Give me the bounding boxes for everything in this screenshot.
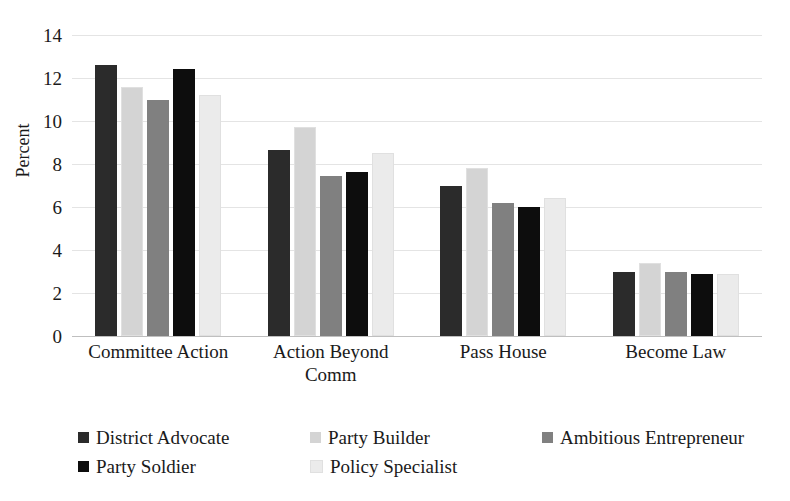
bar — [639, 263, 661, 336]
bar-slot — [268, 35, 290, 336]
bar-slot — [665, 35, 687, 336]
plot-area — [72, 35, 762, 336]
x-axis-label: Pass House — [417, 340, 590, 386]
gridline — [72, 336, 762, 337]
bar — [440, 186, 462, 337]
y-axis-tick-label: 8 — [16, 155, 62, 174]
bar-group — [590, 35, 763, 336]
bar-slot — [346, 35, 368, 336]
x-axis-label: Become Law — [590, 340, 763, 386]
bar-group — [245, 35, 418, 336]
bar-slot — [121, 35, 143, 336]
y-axis-tick-label: 14 — [16, 26, 62, 45]
bar — [518, 207, 540, 336]
legend-swatch-icon — [78, 461, 89, 472]
x-axis-label: Committee Action — [72, 340, 245, 386]
bar-slot — [717, 35, 739, 336]
legend-item[interactable]: Ambitious Entrepreneur — [542, 427, 744, 448]
x-axis-category-labels: Committee ActionAction Beyond CommPass H… — [72, 340, 762, 386]
bar-slot — [440, 35, 462, 336]
bar-slot — [294, 35, 316, 336]
legend-swatch-icon — [542, 432, 553, 443]
y-axis-tick-label: 4 — [16, 241, 62, 260]
bar-slot — [95, 35, 117, 336]
bar-slot — [173, 35, 195, 336]
bar — [492, 203, 514, 336]
legend-label: Policy Specialist — [330, 456, 457, 477]
bar — [95, 65, 117, 336]
bar-slot — [147, 35, 169, 336]
bar — [147, 100, 169, 337]
bar — [691, 274, 713, 336]
legend-item[interactable]: Party Builder — [310, 427, 542, 448]
y-axis-tick-label: 12 — [16, 69, 62, 88]
bar — [173, 69, 195, 336]
bar — [717, 274, 739, 336]
bar-slot — [639, 35, 661, 336]
y-axis-tick-label: 10 — [16, 112, 62, 131]
bar — [199, 95, 221, 336]
bar-groups — [72, 35, 762, 336]
bar — [466, 168, 488, 336]
legend-item[interactable]: District Advocate — [78, 427, 310, 448]
bar — [294, 127, 316, 336]
bar — [372, 153, 394, 336]
y-axis-tick-label: 0 — [16, 327, 62, 346]
bar — [121, 87, 143, 336]
x-axis-label: Action Beyond Comm — [245, 340, 418, 386]
bar-group — [72, 35, 245, 336]
legend-item[interactable]: Policy Specialist — [310, 456, 542, 477]
bar — [665, 272, 687, 337]
legend-label: Party Soldier — [96, 456, 196, 477]
bar-slot — [492, 35, 514, 336]
legend-swatch-icon — [310, 432, 321, 443]
bar-group — [417, 35, 590, 336]
chart-legend: District AdvocateParty BuilderAmbitious … — [78, 423, 738, 481]
bar — [544, 198, 566, 336]
bar-slot — [320, 35, 342, 336]
bar-slot — [199, 35, 221, 336]
legend-swatch-icon — [310, 460, 323, 473]
legend-label: District Advocate — [96, 427, 230, 448]
legend-swatch-icon — [78, 432, 89, 443]
y-axis-tick-label: 2 — [16, 284, 62, 303]
bar-slot — [372, 35, 394, 336]
bar-slot — [518, 35, 540, 336]
y-axis-tick-label: 6 — [16, 198, 62, 217]
bar — [346, 172, 368, 336]
bar-chart: Percent 14121086420 Committee ActionActi… — [0, 0, 790, 501]
bar-slot — [691, 35, 713, 336]
bar — [613, 272, 635, 337]
bar — [320, 176, 342, 336]
bar-slot — [466, 35, 488, 336]
legend-item[interactable]: Party Soldier — [78, 456, 310, 477]
bar-slot — [544, 35, 566, 336]
legend-label: Party Builder — [328, 427, 430, 448]
legend-label: Ambitious Entrepreneur — [560, 427, 744, 448]
bar-slot — [613, 35, 635, 336]
bar — [268, 150, 290, 336]
